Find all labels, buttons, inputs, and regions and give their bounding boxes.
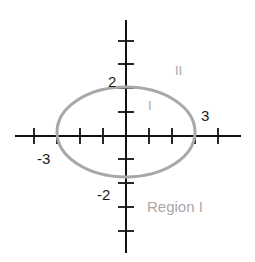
label-y-2: 2	[108, 73, 116, 90]
label-region-II: II	[175, 63, 182, 78]
label-y-neg2: -2	[97, 186, 110, 203]
region-caption: Region I	[147, 198, 203, 215]
label-region-I: I	[148, 98, 152, 113]
ellipse-diagram: 2 -2 3 -3 II I Region I	[0, 0, 255, 262]
label-x-3: 3	[201, 107, 209, 124]
label-x-neg3: -3	[37, 150, 50, 167]
